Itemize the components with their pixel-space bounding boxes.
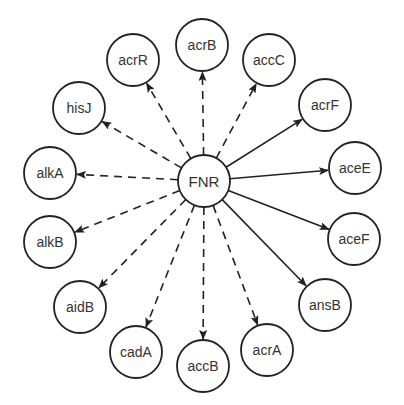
edge-fnr-to-acrr [147,83,191,158]
node-label: ansB [309,297,341,313]
node-alka: alkA [24,147,76,199]
node-hisj: hisJ [53,82,105,134]
node-label: accC [253,52,285,68]
node-accb: accB [177,340,229,392]
node-label: aceE [339,160,371,176]
node-ansb: ansB [299,279,351,331]
edge-fnr-to-acrb [202,72,203,155]
edge-fnr-to-ansb [222,200,306,286]
edge-fnr-to-cada [146,205,194,327]
edge-fnr-to-hisj [102,122,181,168]
edge-fnr-to-accb [203,207,204,339]
node-aidb: aidB [54,281,106,333]
node-acrf: acrF [299,79,351,131]
node-label: accB [187,358,218,374]
node-label: alkA [36,165,64,181]
edge-fnr-to-alkb [75,191,180,233]
node-accc: accC [243,34,295,86]
node-acrr: acrR [107,34,159,86]
node-acrb: acrB [176,19,228,71]
edge-fnr-to-acra [213,205,258,324]
node-label: acrR [118,52,148,68]
node-label: alkB [36,234,63,250]
hub-label: FNR [189,173,220,190]
hub-node-fnr: FNR [178,155,230,207]
edge-fnr-to-alka [77,174,178,179]
fnr-regulatory-network-diagram: acrBaccCacrFaceEaceFansBacrAaccBcadAaidB… [0,0,404,405]
node-label: acrA [253,342,282,358]
node-acra: acrA [241,324,293,376]
node-label: aidB [66,299,94,315]
node-cada: cadA [110,326,162,378]
edge-fnr-to-acee [230,170,328,179]
node-label: cadA [120,344,153,360]
node-label: acrF [311,97,339,113]
node-label: acrB [188,37,217,53]
node-alkb: alkB [24,216,76,268]
edge-fnr-to-aidb [99,200,186,288]
edge-fnr-to-acef [228,190,328,229]
node-acef: aceF [328,213,380,265]
node-acee: aceE [329,142,381,194]
edge-fnr-to-acrf [226,119,302,167]
edge-fnr-to-accc [216,84,256,158]
node-label: aceF [338,231,369,247]
node-label: hisJ [67,100,92,116]
